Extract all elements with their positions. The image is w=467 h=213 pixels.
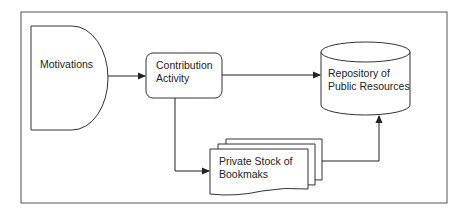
private-stock-label-line-2: Bookmaks <box>219 168 293 181</box>
motivations-shape <box>31 26 108 130</box>
edge-private-stock-repository <box>322 116 379 161</box>
private-stock-label: Private Stock of Bookmaks <box>219 155 293 181</box>
contribution-label-line-1: Contribution <box>156 59 213 72</box>
diagram-canvas <box>0 0 467 213</box>
motivations-label-line-1: Motivations <box>40 58 93 71</box>
contribution-label: Contribution Activity <box>156 59 213 85</box>
edge-contribution-private-stock <box>175 98 209 171</box>
repository-label: Repository of Public Resources <box>328 67 410 93</box>
private-stock-label-line-1: Private Stock of <box>219 155 293 168</box>
motivations-label: Motivations <box>40 58 93 71</box>
repository-label-line-1: Repository of <box>328 67 410 80</box>
contribution-label-line-2: Activity <box>156 72 213 85</box>
repository-label-line-2: Public Resources <box>328 80 410 93</box>
